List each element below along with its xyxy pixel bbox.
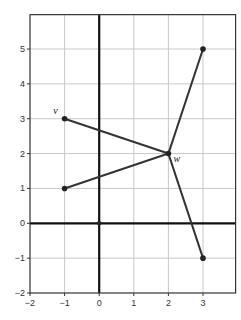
point-label-v: v xyxy=(53,105,58,116)
y-tick-label: −1 xyxy=(15,253,25,263)
point-p2 xyxy=(200,46,206,52)
x-tick-label: 2 xyxy=(166,298,171,308)
line-segment xyxy=(168,154,203,259)
point-label-w: w xyxy=(173,153,180,164)
y-tick-label: 0 xyxy=(20,218,25,228)
point-w xyxy=(166,151,172,157)
point-v xyxy=(62,116,68,122)
y-tick-label: 3 xyxy=(20,114,25,124)
line-segment xyxy=(65,154,169,189)
point-origin xyxy=(97,221,101,225)
x-tick-label: 0 xyxy=(97,298,102,308)
point-p1 xyxy=(62,186,68,192)
y-tick-label: 5 xyxy=(20,44,25,54)
x-tick-label: 3 xyxy=(200,298,205,308)
y-tick-label: 2 xyxy=(20,149,25,159)
x-tick-label: −1 xyxy=(59,298,69,308)
point-p3 xyxy=(200,255,206,261)
y-tick-label: −2 xyxy=(15,288,25,298)
x-tick-label: 1 xyxy=(131,298,136,308)
y-tick-label: 1 xyxy=(20,183,25,193)
coordinate-graph: −2−10123−2−1012345 vw xyxy=(0,0,241,320)
line-segment xyxy=(168,49,203,154)
point-labels: vw xyxy=(53,105,180,164)
y-tick-label: 4 xyxy=(20,79,25,89)
grid-lines xyxy=(30,15,236,293)
line-segment xyxy=(65,119,169,154)
x-tick-label: −2 xyxy=(25,298,35,308)
